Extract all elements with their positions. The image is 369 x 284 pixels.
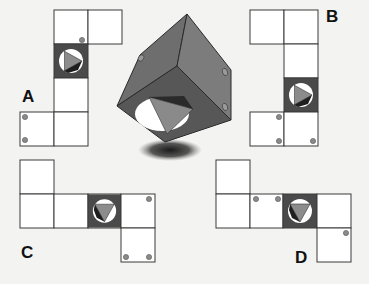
net-d-face-5 [317,194,351,228]
dot-icon [123,254,128,259]
dot-icon [22,137,27,142]
dot-icon [79,37,84,42]
option-d-label[interactable]: D [295,249,307,266]
net-a-face-6 [54,112,88,146]
dot-icon [275,196,280,201]
net-c-face-3 [54,194,88,228]
net-b-triangle-face [284,78,318,112]
dot-icon [276,114,281,119]
net-d-triangle-face [283,194,317,228]
net-a-triangle-face [54,44,88,78]
net-a-face-2 [88,10,122,44]
option-c-net[interactable] [20,160,155,262]
dot-icon [276,138,281,143]
option-d-net[interactable] [216,160,351,262]
dot-icon [253,196,258,201]
puzzle-canvas [0,0,369,284]
net-a-face-4 [54,78,88,112]
dot-icon [310,138,315,143]
net-d-face-2 [216,194,250,228]
option-b-net[interactable] [250,10,318,146]
cube-shadow [138,139,202,161]
net-c-face-2 [20,194,54,228]
reference-cube [117,14,231,161]
net-c-triangle-face [88,194,121,228]
net-d-face-1 [216,160,250,194]
net-b-face-1 [250,10,284,44]
option-b-label[interactable]: B [326,8,338,25]
net-b-face-3 [284,44,318,78]
dot-icon [22,114,27,119]
dot-icon [146,196,151,201]
net-c-face-1 [20,160,54,194]
dot-icon [146,254,151,259]
option-a-net[interactable] [20,10,122,146]
dot-icon [343,230,348,235]
net-b-face-2 [284,10,318,44]
option-c-label[interactable]: C [21,244,33,261]
option-a-label[interactable]: A [22,88,34,105]
